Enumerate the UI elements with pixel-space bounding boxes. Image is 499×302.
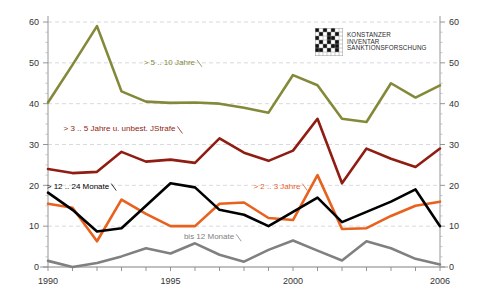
svg-text:1995: 1995 (160, 276, 180, 286)
svg-text:10: 10 (449, 221, 459, 231)
chart-container: 0102030405060 0102030405060 199019952000… (0, 0, 499, 302)
series-annotation-0: > 5 .. 10 Jahre (144, 58, 196, 67)
svg-text:30: 30 (29, 140, 39, 150)
series-annotation-4: bis 12 Monate (184, 232, 235, 241)
svg-text:2006: 2006 (430, 276, 450, 286)
logo-line-3: Sanktionsforschung (347, 45, 427, 52)
series-lines (48, 26, 440, 267)
y-axis-left: 0102030405060 (29, 16, 48, 272)
svg-text:1990: 1990 (38, 276, 58, 286)
logo-grid-icon (315, 28, 343, 56)
svg-text:30: 30 (449, 140, 459, 150)
svg-text:20: 20 (29, 181, 39, 191)
svg-text:50: 50 (29, 58, 39, 68)
svg-text:60: 60 (449, 17, 459, 27)
svg-text:50: 50 (449, 58, 459, 68)
svg-text:0: 0 (449, 262, 454, 272)
svg-text:40: 40 (449, 99, 459, 109)
svg-text:2000: 2000 (283, 276, 303, 286)
svg-text:20: 20 (449, 181, 459, 191)
y-axis-right: 0102030405060 (440, 16, 459, 272)
series-annotation-2: > 2 .. 3 Jahre (253, 182, 300, 191)
logo-wordmark: Konstanzer Inventar Sanktionsforschung (347, 32, 427, 52)
svg-text:0: 0 (34, 262, 39, 272)
svg-text:40: 40 (29, 99, 39, 109)
series-line-4 (48, 240, 440, 267)
x-axis: 1990199520002006 (38, 267, 450, 286)
series-annotation-3: > 12 .. 24 Monate (47, 182, 110, 191)
svg-text:10: 10 (29, 221, 39, 231)
series-annotations: > 5 .. 10 Jahre> 3 .. 5 Jahre u. unbest.… (47, 58, 308, 241)
series-annotation-1: > 3 .. 5 Jahre u. unbest. JStrafe (64, 124, 176, 133)
svg-text:60: 60 (29, 17, 39, 27)
logo: Konstanzer Inventar Sanktionsforschung (315, 25, 420, 59)
